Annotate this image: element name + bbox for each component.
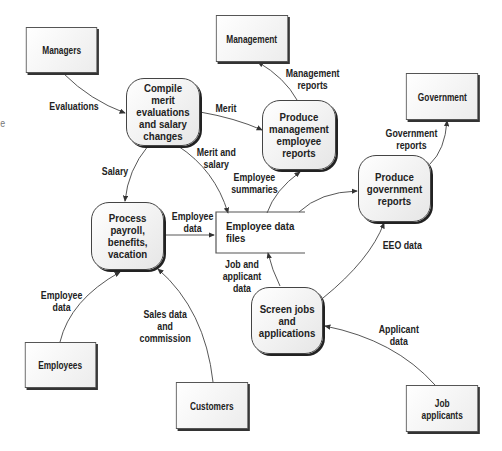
- process-label: Produce government reports: [367, 171, 422, 207]
- process-payroll[interactable]: Process payroll, benefits, vacation: [91, 202, 164, 270]
- data-flow-diagram: e Managers Management Government Employe…: [0, 0, 502, 451]
- process-label: Compile merit evaluations and salary cha…: [131, 82, 194, 142]
- entity-label: Government: [417, 91, 466, 103]
- flow-label-sales-data: Sales data and commission: [140, 309, 191, 345]
- entity-label: Employees: [39, 359, 83, 371]
- process-produce-government-reports[interactable]: Produce government reports: [358, 155, 431, 222]
- flow-salary: [125, 146, 148, 201]
- entity-job-applicants[interactable]: Job applicants: [406, 385, 478, 432]
- entity-customers[interactable]: Customers: [176, 382, 248, 429]
- flow-label-employees-employee-data: Employee data: [41, 290, 83, 314]
- margin-fragment-text: e: [0, 118, 5, 130]
- process-compile-merit[interactable]: Compile merit evaluations and salary cha…: [126, 78, 200, 146]
- entity-government[interactable]: Government: [406, 73, 478, 120]
- process-label: Produce management employee reports: [269, 111, 329, 159]
- flow-label-merit-and-salary: Merit and salary: [197, 147, 236, 171]
- entity-managers[interactable]: Managers: [26, 27, 97, 73]
- flow-label-job-applicant-data: Job and applicant data: [223, 259, 262, 295]
- entity-label: Job applicants: [421, 397, 462, 421]
- flow-label-employee-summaries: Employee summaries: [231, 172, 277, 196]
- flow-label-eeo-data: EEO data: [383, 240, 422, 252]
- entity-label: Managers: [42, 44, 81, 56]
- entity-management[interactable]: Management: [216, 15, 288, 62]
- process-label: Process payroll, benefits, vacation: [108, 212, 148, 260]
- flow-label-salary: Salary: [102, 166, 128, 178]
- flow-label-government-reports: Government reports: [386, 128, 438, 152]
- process-produce-management-reports[interactable]: Produce management employee reports: [262, 100, 336, 170]
- flow-label-management-reports: Management reports: [286, 68, 340, 92]
- process-label: Screen jobs and applications: [259, 303, 315, 339]
- entity-label: Customers: [190, 400, 233, 412]
- flow-label-payroll-employee-data: Employee data: [172, 211, 214, 235]
- data-store-employee-data-files[interactable]: Employee data files: [226, 220, 294, 244]
- flow-label-applicant-data: Applicant data: [379, 324, 419, 348]
- flow-eeo-data: [323, 223, 384, 298]
- process-screen-jobs[interactable]: Screen jobs and applications: [251, 287, 323, 354]
- entity-label: Management: [227, 33, 278, 45]
- flow-label-merit: Merit: [215, 103, 236, 115]
- entity-employees[interactable]: Employees: [25, 342, 96, 388]
- flow-job-applicant-data: [268, 253, 280, 286]
- flow-files-to-gov: [299, 191, 357, 212]
- flow-label-evaluations: Evaluations: [49, 101, 98, 113]
